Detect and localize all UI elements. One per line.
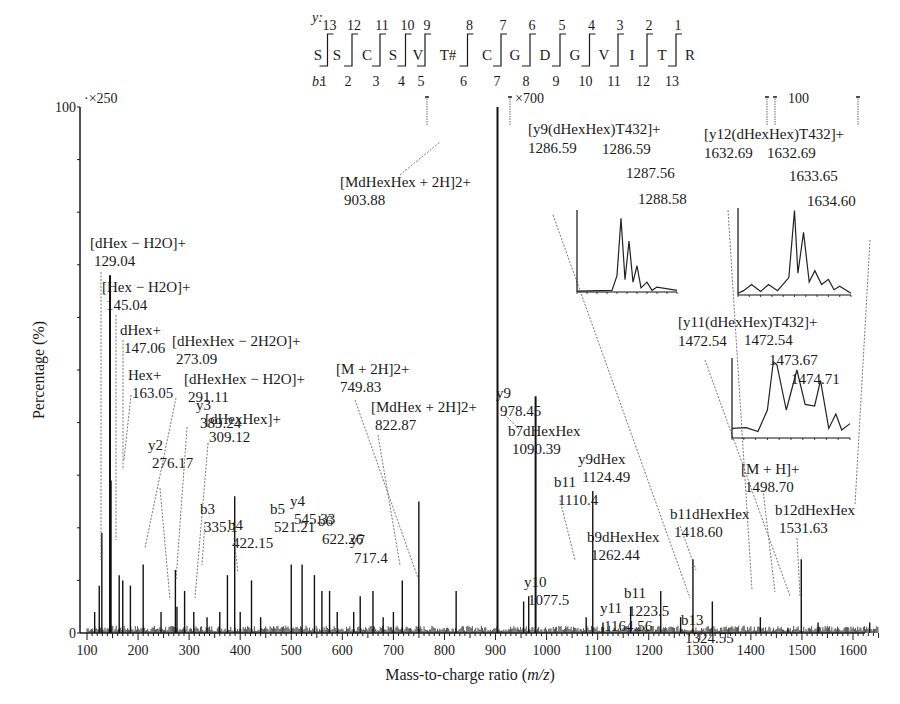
y-number: 8	[466, 18, 473, 33]
isotope-inset: [y9(dHexHex)T432]+1286.591286.591287.561…	[528, 121, 687, 294]
annotation-ion: y4	[290, 493, 306, 509]
y-number: 13	[323, 18, 337, 33]
inset-mono-mz: 1472.54	[678, 333, 727, 349]
annotation-ion: y3	[196, 397, 211, 413]
annotation-ion: y10	[524, 574, 547, 590]
annotation-mz: 309.12	[209, 429, 250, 445]
spectrum-svg: y:b:SSCSVT#CGDGVITR131122113104958677685…	[0, 0, 900, 704]
x-tick-label: 1200	[635, 643, 663, 658]
annotation-ion: b11	[554, 474, 576, 490]
x-tick-label: 500	[281, 643, 302, 658]
annotation-mz: 1077.5	[528, 592, 569, 608]
annotation-mz: 903.88	[344, 192, 385, 208]
inset-title: [y9(dHexHex)T432]+	[528, 121, 661, 138]
y-tick-100: 100	[55, 100, 76, 115]
annotation-ion: [Hex − H2O]+	[102, 279, 191, 295]
y-number: 4	[588, 18, 595, 33]
annotation-ion: b7dHexHex	[508, 423, 581, 439]
peak-annotations: [dHex − H2O]+129.04[Hex − H2O]+145.04dHe…	[90, 142, 870, 646]
x-tick-label: 1100	[584, 643, 611, 658]
annotation-mz: 1418.60	[674, 524, 723, 540]
annotation-ion: b4	[228, 517, 244, 533]
x-tick-label: 600	[332, 643, 353, 658]
isotope-peak-label: 1288.58	[638, 191, 687, 207]
residue: T	[657, 47, 666, 63]
b-number: 5	[418, 74, 425, 89]
annotation-mz: 389.24	[200, 415, 242, 431]
annotation-mz: 1124.49	[582, 469, 630, 485]
annotation-ion: Hex+	[128, 367, 161, 383]
b-number: 1	[320, 74, 327, 89]
annotation-mz: 422.15	[232, 535, 273, 551]
annotation-ion: y2	[148, 437, 163, 453]
annotation-ion: [dHexHex − H2O]+	[184, 371, 305, 387]
annotation-ion: [dHex − H2O]+	[90, 235, 186, 251]
annotation-mz: 1262.44	[591, 547, 640, 563]
x-tick-label: 1500	[788, 643, 816, 658]
y-number: 3	[617, 18, 624, 33]
annotation-mz: 822.87	[375, 417, 417, 433]
residue: V	[413, 47, 424, 63]
isotope-peak-label: 1287.56	[626, 165, 675, 181]
annotation-mz: 1531.63	[779, 520, 828, 536]
annotation-ion: [MdHexHex + 2H]2+	[340, 174, 471, 190]
isotope-inset: [y12(dHexHex)T432]+1632.691632.691633.65…	[704, 126, 856, 297]
isotope-peak-label: 1632.69	[767, 145, 816, 161]
annotation-mz: 147.06	[124, 340, 166, 356]
annotation-ion: [dHexHex − 2H2O]+	[172, 333, 301, 349]
isotope-peak-label: 1286.59	[602, 141, 651, 157]
residue: S	[314, 47, 322, 63]
y-number: 12	[347, 18, 361, 33]
isotope-insets: [y9(dHexHex)T432]+1286.591286.591287.561…	[528, 121, 856, 440]
annotation-ion: b6	[318, 513, 334, 529]
annotation-ion: y9	[496, 385, 511, 401]
y-number: 7	[500, 18, 507, 33]
b-number: 10	[579, 74, 593, 89]
x-tick-label: 100	[77, 643, 98, 658]
y-number: 9	[424, 18, 431, 33]
peaks	[87, 107, 878, 633]
annotation-mz: 1110.4	[558, 492, 599, 508]
residue: G	[510, 47, 521, 63]
y-number: 11	[375, 18, 388, 33]
residue: G	[570, 47, 581, 63]
annotation-mz: 163.05	[132, 385, 173, 401]
annotation-mz: 1164.56	[604, 618, 653, 634]
isotope-peak-label: 1634.60	[807, 193, 856, 209]
annotation-ion: b11dHexHex	[670, 506, 750, 522]
annotation-ion: [M + 2H]2+	[336, 361, 410, 377]
isotope-peak-label: 1473.67	[769, 352, 818, 368]
x-tick-label: 700	[383, 643, 404, 658]
annotation-mz: 1324.55	[685, 630, 734, 646]
peptide-sequence-diagram: y:b:SSCSVT#CGDGVITR131122113104958677685…	[310, 10, 695, 89]
y-number: 10	[401, 18, 415, 33]
inset-mono-mz: 1286.59	[528, 140, 577, 156]
magnification-x100: 100	[788, 91, 809, 106]
y-number: 6	[529, 18, 536, 33]
annotation-ion: [MdHex + 2H]2+	[371, 399, 477, 415]
residue: S	[333, 47, 341, 63]
x-tick-label: 1400	[737, 643, 765, 658]
inset-mono-mz: 1632.69	[704, 145, 753, 161]
annotation-ion: b13	[681, 612, 704, 628]
y-ion-label: y:	[310, 10, 323, 25]
y-number: 1	[675, 18, 682, 33]
annotation-mz: 749.83	[340, 379, 381, 395]
b-number: 4	[398, 74, 405, 89]
annotation-mz: 1498.70	[745, 479, 794, 495]
annotation-ion: b3	[200, 501, 215, 517]
annotation-ion: [M + H]+	[741, 461, 800, 477]
inset-title: [y12(dHexHex)T432]+	[704, 126, 844, 143]
annotation-ion: b11	[624, 585, 646, 601]
x-tick-label: 900	[485, 643, 506, 658]
x-tick-label: 200	[128, 643, 149, 658]
residue: I	[630, 47, 635, 63]
annotation-mz: 276.17	[152, 455, 194, 471]
y-number: 2	[646, 18, 653, 33]
residue: D	[540, 47, 551, 63]
annotation-mz: 273.09	[176, 351, 217, 367]
x-tick-label: 800	[434, 643, 455, 658]
isotope-peak-label: 1474.71	[791, 371, 840, 387]
annotation-ion: dHex+	[120, 322, 161, 338]
annotation-ion: y7	[350, 532, 366, 548]
